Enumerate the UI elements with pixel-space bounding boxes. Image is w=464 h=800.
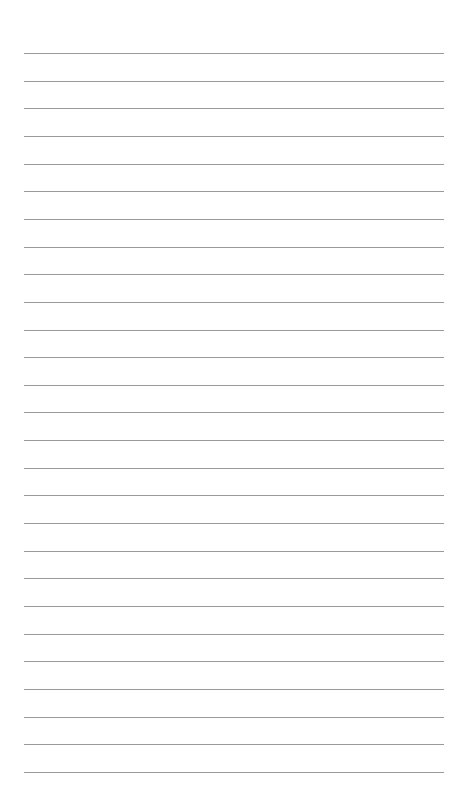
ruled-line [24,247,444,248]
ruled-line [24,744,444,745]
ruled-line [24,330,444,331]
ruled-line [24,468,444,469]
ruled-line [24,108,444,109]
ruled-line [24,191,444,192]
ruled-line [24,689,444,690]
ruled-line [24,717,444,718]
ruled-line [24,53,444,54]
ruled-line [24,302,444,303]
ruled-line [24,495,444,496]
ruled-line [24,606,444,607]
ruled-line [24,440,444,441]
ruled-line [24,523,444,524]
ruled-line [24,772,444,773]
ruled-line [24,164,444,165]
ruled-line [24,219,444,220]
ruled-line [24,412,444,413]
ruled-line [24,634,444,635]
ruled-line [24,385,444,386]
ruled-line [24,551,444,552]
ruled-line [24,578,444,579]
ruled-line [24,661,444,662]
ruled-line [24,357,444,358]
ruled-line [24,274,444,275]
ruled-line [24,81,444,82]
ruled-line [24,136,444,137]
lined-paper-page [0,0,464,800]
